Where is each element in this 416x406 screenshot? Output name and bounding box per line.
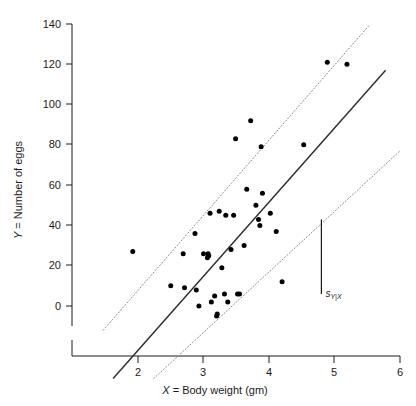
prediction-band-lines [103,26,400,379]
plot-canvas: 140 120 100 80 60 40 20 0 Y = Number of … [0,0,416,406]
data-point [325,60,330,65]
data-point [244,187,249,192]
data-point [259,144,264,149]
y-axis-break-elbow [72,340,92,356]
data-point [208,211,213,216]
data-point [231,213,236,218]
x-tick-label-4: 4 [266,366,272,378]
data-point [130,249,135,254]
error-bar-label: sY|X [325,288,341,302]
x-tick-label-5: 5 [331,366,337,378]
data-point [206,253,211,258]
data-point [260,191,265,196]
data-point [225,299,230,304]
x-axis-title: X = Body weight (gm) [161,384,267,396]
x-tick-label-6: 6 [397,366,403,378]
data-point [196,304,201,309]
y-tick-label-20: 20 [49,259,61,271]
y-tick-label-120: 120 [43,58,61,70]
data-point [215,312,220,317]
data-point [253,203,258,208]
data-point [257,223,262,228]
data-point [192,231,197,236]
data-point [233,136,238,141]
scatter-plot-figure: 140 120 100 80 60 40 20 0 Y = Number of … [0,0,416,406]
data-point [168,283,173,288]
data-point [194,287,199,292]
x-tick-label-2: 2 [135,366,141,378]
data-point [248,118,253,123]
standard-error-marker: sY|X [321,219,341,301]
data-point [219,265,224,270]
data-point [217,209,222,214]
x-tick-label-3: 3 [200,366,206,378]
data-point [229,247,234,252]
y-tick-label-0: 0 [55,300,61,312]
data-point [237,291,242,296]
data-point [280,279,285,284]
y-axis-title: Y = Number of eggs [12,140,24,239]
lower-band [154,151,400,379]
data-point [242,243,247,248]
data-point-series [130,60,349,319]
y-axis: 140 120 100 80 60 40 20 0 Y = Number of … [12,18,92,356]
error-bar-label-subscript: Y|X [330,293,341,301]
data-point [201,251,206,256]
data-point [181,251,186,256]
x-axis: 2 3 4 5 6 X = Body weight (gm) [92,356,403,396]
y-tick-label-140: 140 [43,18,61,30]
data-point [222,291,227,296]
upper-band [103,26,368,330]
data-point [182,285,187,290]
data-point [212,293,217,298]
y-tick-label-80: 80 [49,138,61,150]
y-tick-label-40: 40 [49,219,61,231]
data-point [344,62,349,67]
data-point [274,229,279,234]
data-point [301,142,306,147]
regression-line-path [113,70,385,378]
y-tick-label-60: 60 [49,179,61,191]
data-point [209,299,214,304]
regression-line [113,70,385,378]
data-point [268,211,273,216]
data-point [223,213,228,218]
y-tick-label-100: 100 [43,98,61,110]
data-point [256,217,261,222]
